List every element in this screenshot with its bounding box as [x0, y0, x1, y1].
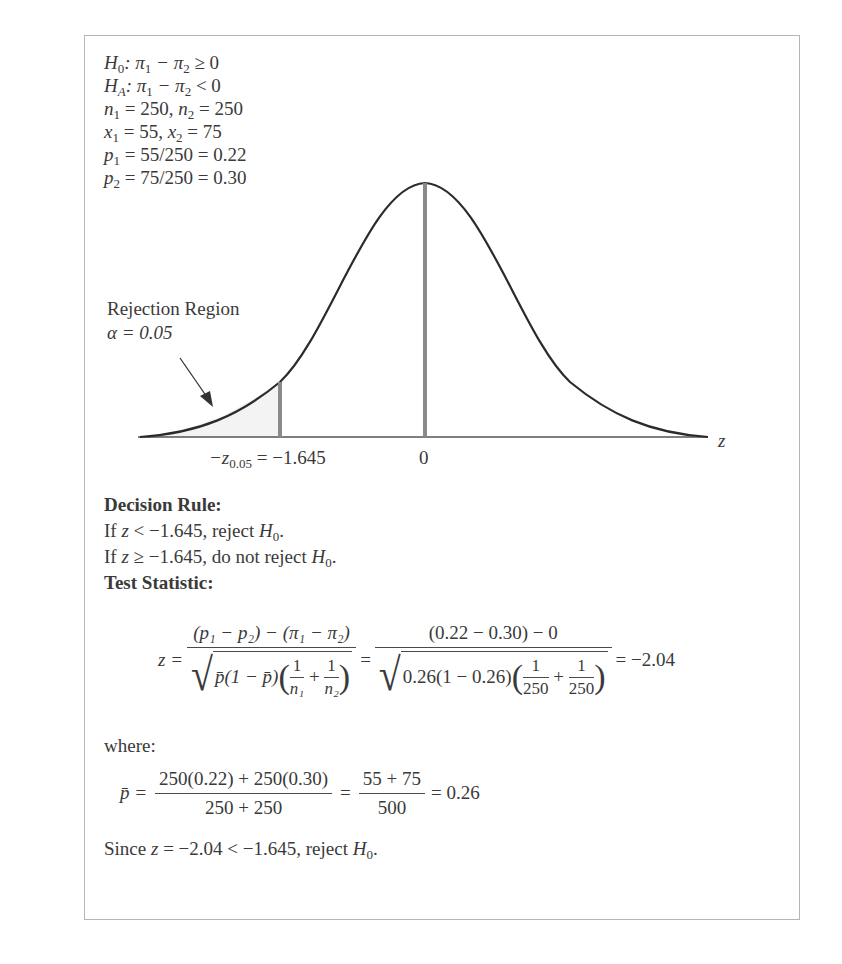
general-formula: (p₁ − p₂) − (π₁ − π₂) √p̄(1 − p̄)(1n₁ + … — [187, 622, 356, 699]
numeric-formula: (0.22 − 0.30) − 0 √0.26(1 − 0.26)(1250 +… — [375, 622, 612, 699]
conclusion: Since z = −2.04 < −1.645, reject H0. — [104, 838, 378, 860]
where-label: where: — [104, 735, 156, 757]
decision-rule-1: If z < −1.645, reject H0. — [104, 520, 284, 542]
annotation-arrowhead — [200, 391, 213, 407]
test-statistic-heading: Test Statistic: — [104, 572, 214, 594]
z-axis-label: z — [718, 430, 725, 452]
rejection-region-label: Rejection Region — [107, 298, 239, 320]
rejection-region-shading — [140, 382, 280, 437]
critical-value-label: −z0.05 = −1.645 — [209, 447, 326, 469]
test-statistic-result: = −2.04 — [616, 649, 675, 671]
decision-rule-heading: Decision Rule: — [104, 494, 222, 516]
zero-tick-label: 0 — [419, 447, 429, 469]
decision-rule-2: If z ≥ −1.645, do not reject H0. — [104, 546, 336, 568]
alpha-label: α = 0.05 — [107, 322, 173, 344]
pooled-proportion-equation: p̄ = 250(0.22) + 250(0.30)250 + 250 = 55… — [120, 758, 480, 828]
test-statistic-equation: z = (p₁ − p₂) − (π₁ − π₂) √p̄(1 − p̄)(1n… — [158, 600, 675, 720]
